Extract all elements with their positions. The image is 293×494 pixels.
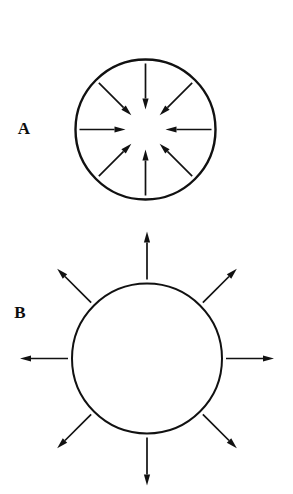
figure-canvas: A B <box>0 0 293 494</box>
panel-a-label: A <box>18 119 31 138</box>
figure-root: A B <box>0 0 293 494</box>
panel-b-label: B <box>14 303 25 322</box>
